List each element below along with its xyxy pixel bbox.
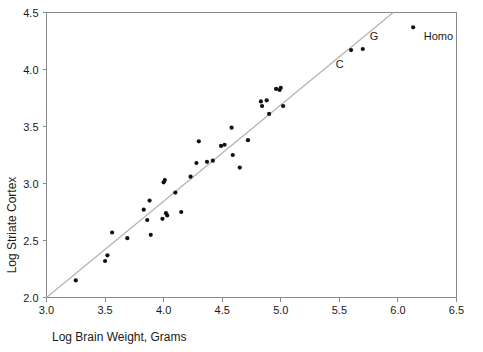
data-point <box>267 112 271 116</box>
scatter-plot-figure: 3.03.54.04.55.05.56.06.5 2.02.53.03.54.0… <box>0 0 483 352</box>
data-point <box>173 191 177 195</box>
y-axis-title: Log Striate Cortex <box>5 177 19 274</box>
data-point <box>361 47 365 51</box>
data-point <box>222 143 226 147</box>
data-point <box>110 230 114 234</box>
data-point <box>125 236 129 240</box>
chart-canvas: 3.03.54.04.55.05.56.06.5 2.02.53.03.54.0… <box>0 0 483 352</box>
x-tick-label: 4.5 <box>215 304 230 316</box>
data-point <box>147 199 151 203</box>
data-point <box>149 233 153 237</box>
regression-line <box>47 13 394 298</box>
data-point <box>246 138 250 142</box>
data-point <box>281 104 285 108</box>
x-tick-label: 4.0 <box>156 304 171 316</box>
data-point <box>229 126 233 130</box>
y-tick-label: 2.5 <box>23 235 38 247</box>
data-point <box>211 159 215 163</box>
data-point <box>103 259 107 263</box>
data-point <box>160 217 164 221</box>
data-point <box>411 25 415 29</box>
x-axis-title: Log Brain Weight, Grams <box>52 330 187 344</box>
y-tick-label: 3.5 <box>23 121 38 133</box>
data-point <box>194 161 198 165</box>
data-point <box>142 208 146 212</box>
data-point <box>231 153 235 157</box>
data-point <box>238 165 242 169</box>
data-point <box>165 213 169 217</box>
data-point <box>145 218 149 222</box>
x-axis-tick-labels: 3.03.54.04.55.05.56.06.5 <box>39 304 464 316</box>
data-point <box>205 160 209 164</box>
data-point <box>163 178 167 182</box>
y-tick-label: 4.0 <box>23 64 38 76</box>
y-tick-label: 4.5 <box>23 7 38 19</box>
x-tick-label: 6.0 <box>390 304 405 316</box>
x-tick-label: 3.5 <box>97 304 112 316</box>
x-tick-label: 6.5 <box>449 304 464 316</box>
point-annotations: CGHomo <box>336 30 453 71</box>
annotation-homo: Homo <box>424 30 453 42</box>
data-point <box>74 278 78 282</box>
data-point <box>260 104 264 108</box>
y-tick-label: 3.0 <box>23 178 38 190</box>
data-point <box>188 175 192 179</box>
data-points <box>74 25 416 282</box>
data-point <box>279 86 283 90</box>
data-point <box>179 210 183 214</box>
x-tick-label: 3.0 <box>39 304 54 316</box>
y-axis-tick-labels: 2.02.53.03.54.04.5 <box>23 7 38 304</box>
data-point <box>259 99 263 103</box>
data-point <box>349 48 353 52</box>
data-point <box>265 98 269 102</box>
x-tick-label: 5.5 <box>332 304 347 316</box>
annotation-g: G <box>370 30 379 42</box>
y-tick-label: 2.0 <box>23 292 38 304</box>
x-axis-ticks <box>47 298 457 302</box>
y-axis-ticks <box>43 13 47 298</box>
data-point <box>197 139 201 143</box>
data-point <box>105 253 109 257</box>
annotation-c: C <box>336 58 344 70</box>
x-tick-label: 5.0 <box>273 304 288 316</box>
